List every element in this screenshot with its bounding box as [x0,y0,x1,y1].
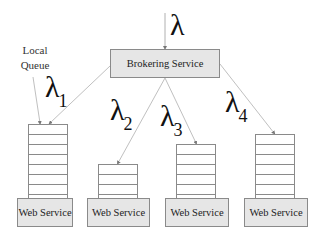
local-queue-label: Local Queue [14,43,56,73]
queue-slot [177,175,215,185]
brokering-service-label: Brokering Service [127,58,204,69]
rate-subscript: 1 [59,91,68,111]
queue-slot [29,155,67,165]
queue-2 [98,164,138,199]
queue-1 [28,124,68,199]
queue-slot [29,125,67,135]
rate-label-4: λ4 [225,87,249,117]
lambda-symbol: λ [45,70,60,103]
queue-slot [29,175,67,185]
web-service-label: Web Service [18,207,71,218]
rate-subscript: 3 [174,120,183,140]
web-service-label: Web Service [249,207,302,218]
queue-slot [256,135,294,145]
queue-slot [177,155,215,165]
local-queue-label-line1: Local [14,43,56,58]
queue-slot [256,185,294,195]
queue-slot [99,185,137,195]
queue-slot [256,155,294,165]
queue-slot [99,165,137,175]
lambda-symbol: λ [110,93,125,126]
queue-slot [177,165,215,175]
web-service-label: Web Service [170,207,223,218]
queue-slot [29,185,67,195]
lambda-symbol: λ [170,8,185,41]
queue-slot [29,165,67,175]
lambda-symbol: λ [225,85,240,118]
web-service-label: Web Service [92,207,145,218]
rate-subscript: 4 [239,106,248,126]
queue-4 [255,134,295,199]
rate-label-2: λ2 [110,95,134,125]
web-service-2[interactable]: Web Service [87,198,150,227]
queue-slot [29,145,67,155]
queue-slot [256,175,294,185]
queue-3 [176,144,216,199]
queue-slot [99,175,137,185]
queue-slot [256,165,294,175]
web-service-4[interactable]: Web Service [244,198,308,227]
input-rate-label: λ [170,10,185,40]
queue-slot [256,145,294,155]
web-service-3[interactable]: Web Service [165,198,229,227]
rate-label-1: λ1 [45,72,69,102]
rate-label-3: λ3 [160,101,184,131]
web-service-1[interactable]: Web Service [17,198,73,227]
queue-slot [177,185,215,195]
local-queue-pointer [33,77,40,123]
queue-slot [177,145,215,155]
queue-slot [29,135,67,145]
lambda-symbol: λ [160,99,175,132]
rate-subscript: 2 [124,114,133,134]
brokering-service-box[interactable]: Brokering Service [110,49,220,78]
